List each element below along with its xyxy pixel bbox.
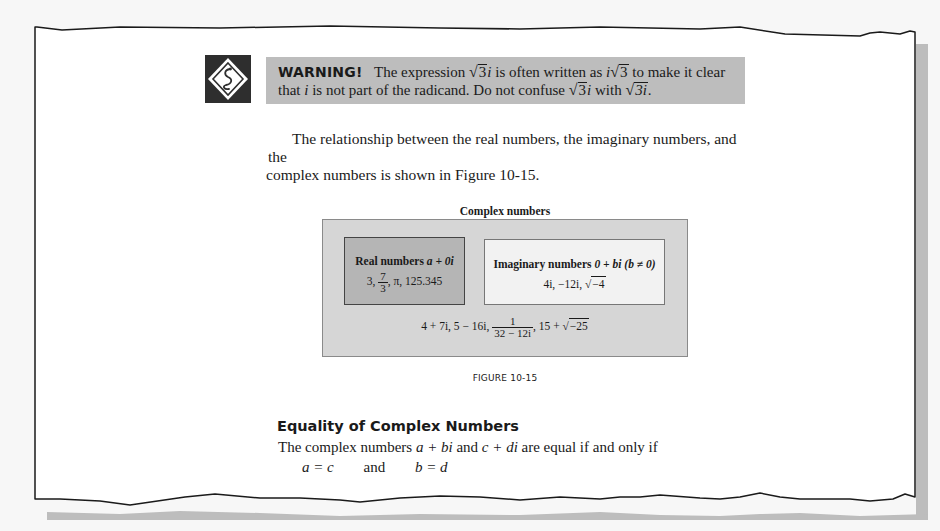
real-numbers-set: Real numbers a + 0i 3, 73, π, 125.345 (344, 237, 465, 305)
complex-numbers-examples: 4 + 7i, 5 − 16i, 132 − 12i, 15 + √−25 (322, 316, 688, 339)
imaginary-numbers-examples: 4i, −12i, √−4 (485, 276, 664, 291)
intro-paragraph: The relationship between the real number… (268, 130, 738, 184)
section-heading: Equality of Complex Numbers (277, 418, 519, 434)
textbook-page: WARNING! The expression √3i is often wri… (0, 0, 940, 531)
real-numbers-examples: 3, 73, π, 125.345 (345, 271, 464, 294)
warning-callout: WARNING! The expression √3i is often wri… (266, 57, 745, 104)
warning-line-1: WARNING! The expression √3i is often wri… (278, 63, 745, 81)
equality-conditions: a = c and b = d (302, 458, 448, 476)
warning-title: WARNING! (278, 64, 363, 80)
sqrt-3-times-i-expression: √3i (569, 82, 591, 98)
sqrt-3i-expression-2: √3i (625, 82, 647, 98)
real-numbers-heading: Real numbers a + 0i (345, 255, 464, 267)
imaginary-numbers-heading: Imaginary numbers 0 + bi (b ≠ 0) (485, 258, 664, 270)
warning-line-2: that i is not part of the radicand. Do n… (278, 81, 745, 99)
figure-caption: FIGURE 10-15 (322, 373, 688, 383)
imaginary-numbers-set: Imaginary numbers 0 + bi (b ≠ 0) 4i, −12… (484, 239, 665, 305)
figure-title: Complex numbers (322, 205, 688, 217)
sqrt-3i-expression: √3i (469, 64, 491, 80)
section-body: The complex numbers a + bi and c + di ar… (278, 438, 658, 456)
i-sqrt-3-expression: i√3 (606, 64, 628, 80)
snake-warning-icon (205, 55, 251, 103)
